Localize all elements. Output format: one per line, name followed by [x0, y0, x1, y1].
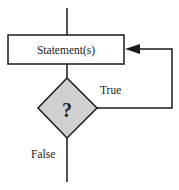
arrowhead-icon: [125, 44, 140, 54]
true-branch-label: True: [100, 84, 121, 96]
statement-node: Statement(s): [8, 35, 124, 64]
flowchart: Statement(s) ? True False: [0, 0, 179, 190]
false-branch-label: False: [31, 148, 55, 160]
condition-label: ?: [62, 99, 72, 121]
condition-node: ?: [38, 78, 97, 138]
statement-label: Statement(s): [37, 44, 95, 57]
